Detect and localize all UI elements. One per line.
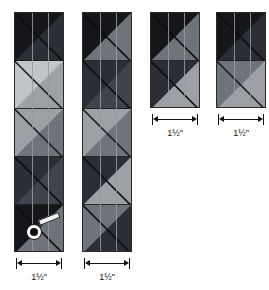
block-1-4-hst [15,157,63,205]
block-1-5-hst [15,205,63,252]
block-2-2-triangle-upper-left [83,61,131,109]
block-2-5-hst [83,205,131,252]
block-4-1-triangle-upper-left [217,13,265,61]
block-2-3-hst [83,109,131,157]
strip-set-4-measure-bar [218,114,264,125]
block-2-1-triangle-upper-left [83,13,131,61]
strip-set-2-measure-label: 1½" [84,272,130,282]
strip-set-4-measure-label: 1½" [218,128,264,138]
block-2-5-triangle-upper-left [83,205,131,252]
block-4-2 [217,61,265,108]
strip-set-2-measure-bar [84,258,130,269]
block-2-1-hst [83,13,131,61]
block-2-2 [83,61,131,109]
block-2-3 [83,109,131,157]
block-2-4 [83,157,131,205]
block-2-4-triangle-upper-left [83,157,131,205]
block-1-2-hst [15,61,63,109]
strip-set-1-measure: 1½" [16,258,62,282]
block-4-1 [217,13,265,61]
strip-set-1-body [14,12,64,252]
block-1-5-triangle-upper-left [15,205,63,252]
strip-set-4-measure-cap-right [263,114,264,125]
strip-set-2-measure: 1½" [84,258,130,282]
strip-set-4-measure: 1½" [218,114,264,138]
strip-set-2-measure-arrow-right [124,260,129,266]
block-1-1-triangle-upper-left [15,13,63,61]
block-3-1-hst [151,13,199,61]
block-1-3 [15,109,63,157]
strip-set-2-measure-line [88,263,126,264]
block-1-1-hst [15,13,63,61]
diagram-canvas: 1½"1½"1½"1½" [0,0,269,290]
strip-set-2-measure-cap-right [129,258,130,269]
strip-set-1-measure-cap-right [61,258,62,269]
block-1-3-triangle-upper-left [15,109,63,157]
strip-set-4-measure-arrow-right [258,116,263,122]
block-2-1 [83,13,131,61]
block-1-2-triangle-upper-left [15,61,63,109]
block-1-1 [15,13,63,61]
strip-set-3-measure-arrow-right [192,116,197,122]
strip-set-3-measure-label: 1½" [152,128,198,138]
strip-set-4 [216,12,266,108]
block-2-4-hst [83,157,131,205]
strip-set-1 [14,12,64,252]
block-4-2-triangle-upper-left [217,61,265,108]
block-1-3-hst [15,109,63,157]
block-4-2-hst [217,61,265,108]
strip-set-1-measure-bar [16,258,62,269]
block-2-5 [83,205,131,252]
block-3-2-triangle-upper-left [151,61,199,108]
block-3-1 [151,13,199,61]
strip-set-3 [150,12,200,108]
block-4-1-hst [217,13,265,61]
strip-set-3-body [150,12,200,108]
block-3-2-hst [151,61,199,108]
strip-set-2 [82,12,132,252]
strip-set-3-measure-arrow-left [153,116,158,122]
strip-set-2-body [82,12,132,252]
strip-set-3-measure-cap-right [197,114,198,125]
block-3-1-triangle-upper-left [151,13,199,61]
block-1-5 [15,205,63,252]
strip-set-4-body [216,12,266,108]
strip-set-1-measure-arrow-right [56,260,61,266]
strip-set-4-measure-arrow-left [219,116,224,122]
strip-set-2-measure-arrow-left [85,260,90,266]
block-2-3-triangle-upper-left [83,109,131,157]
strip-set-3-measure-bar [152,114,198,125]
strip-set-4-measure-line [222,119,260,120]
block-2-2-hst [83,61,131,109]
strip-set-1-measure-label: 1½" [16,272,62,282]
strip-set-3-measure-line [156,119,194,120]
strip-set-1-measure-arrow-left [17,260,22,266]
block-1-4 [15,157,63,205]
block-1-2 [15,61,63,109]
strip-set-3-measure: 1½" [152,114,198,138]
block-1-4-triangle-upper-left [15,157,63,205]
block-3-2 [151,61,199,108]
strip-set-1-measure-line [20,263,58,264]
